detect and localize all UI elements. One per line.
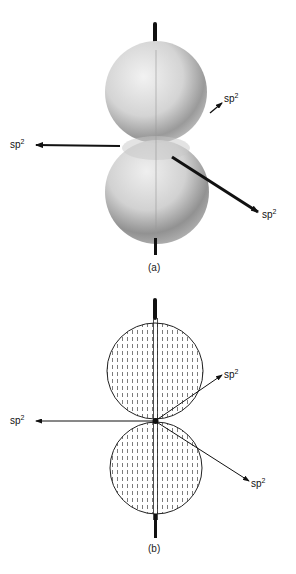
panel-a: sp2 sp2 sp2 (a) (10, 22, 277, 273)
caption-a: (a) (148, 262, 160, 273)
p-axis-top-b (153, 298, 157, 320)
sp2-label-left-b: sp2 (10, 414, 25, 426)
sp2-arrow-left-a (36, 145, 120, 146)
caption-b: (b) (148, 543, 160, 554)
p-axis-bottom-b (154, 514, 157, 538)
p-lobe-upper-b (107, 323, 203, 419)
p-lobe-lower-b (110, 422, 202, 514)
sp2-label-lower-right-b: sp2 (251, 477, 266, 489)
sp2-arrow-upper-right-a (210, 103, 222, 113)
p-axis-bottom-a (154, 238, 157, 255)
sp2-label-left-a: sp2 (10, 138, 25, 150)
orbital-diagram: sp2 sp2 sp2 (a) sp2 sp2 sp2 (b) (0, 0, 296, 574)
sp2-label-lower-right-a: sp2 (262, 208, 277, 220)
sp2-label-upper-right-b: sp2 (224, 368, 239, 380)
panel-b: sp2 sp2 sp2 (b) (10, 298, 266, 554)
sp2-label-upper-right-a: sp2 (224, 92, 239, 104)
carbon-nucleus-b (153, 418, 159, 424)
